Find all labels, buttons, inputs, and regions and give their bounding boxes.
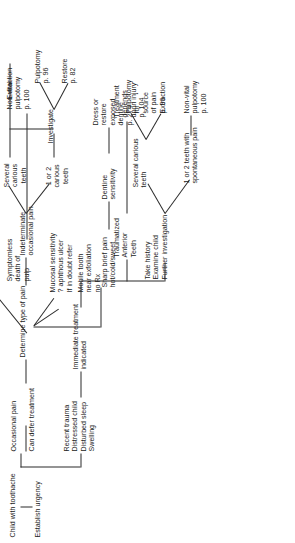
connector-determine-fan-spine (33, 326, 100, 327)
connector-indeterminate-to-several-carious (8, 185, 26, 213)
connector-urgency-spine (20, 466, 80, 467)
connector-immediate-to-history2 (164, 263, 165, 281)
connector-indeterminate-to-one-or-two-carious (25, 183, 49, 214)
node-several-carious-teeth-lower: Several carious teeth (131, 138, 148, 187)
node-extraction-upper: Extraction (5, 67, 13, 99)
connector-urgency-to-trauma (80, 453, 81, 467)
connector-investigate-to-pulpotomy (39, 82, 54, 109)
connector-spont-to-nonvital-pulpotomy (190, 115, 191, 135)
connector-investigate-to-restore (53, 83, 68, 110)
node-several-carious-teeth-upper: Several carious teeth (2, 163, 27, 187)
connector-sharp-to-dentine (108, 201, 109, 229)
connector-determine-to-indeterminate (25, 257, 26, 285)
connector-determine-to-mobile (33, 308, 58, 326)
connector-history-to-one-or-two-spont (164, 179, 189, 214)
connector-immediate-spine (80, 280, 164, 281)
node-nonvital-pulpotomy-lower: Non-vital pulpotomy p. 100 (182, 80, 207, 113)
node-establish-urgency: Establish urgency (33, 481, 41, 537)
connector-determine-to-sharp (100, 287, 101, 327)
node-extraction-lower: Extraction (158, 81, 166, 113)
node-determine-type-of-pain: Determine type of pain (18, 285, 26, 357)
node-mucosal-sensitivity: Mucosal sensitivity ? aphthous ulcer If … (48, 232, 73, 292)
flowchart-canvas: Child with toothache Establish urgency O… (0, 0, 295, 543)
connector-dentine-to-dress (108, 127, 109, 153)
node-recent-trauma: Recent trauma Distressed child Disturbed… (62, 401, 96, 451)
connector-traumatized-to-treatment (126, 121, 127, 213)
node-mobile-tooth: Mobile tooth near exfoliation no Rx (76, 244, 101, 292)
connector-urgency-to-occasional (20, 453, 21, 467)
node-root: Child with toothache (8, 473, 16, 537)
connector-determine-to-mucosal (33, 297, 54, 325)
node-one-or-two-carious-teeth: 1 or 2 carious teeth (44, 164, 69, 187)
node-restore: Restore p. 82 (60, 58, 77, 83)
connector-history-to-several-carious (147, 183, 165, 213)
node-pulpotomy: Pulpotomy p. 96 (33, 49, 50, 83)
connector-root-to-urgency (20, 506, 32, 507)
node-dentine-sensitivity: Dentine sensitivity (100, 168, 117, 199)
node-occasional-pain: Occasional pain (9, 400, 17, 451)
connector-several-carious-lower-to-extraction (145, 113, 161, 139)
connector-to-traumatized-anterior (126, 259, 127, 281)
node-investigate: Investigate (46, 108, 54, 143)
node-can-defer-treatment: Can defer treatment (27, 388, 35, 451)
node-immediate-treatment: Immediate treatment indicated (71, 304, 88, 369)
node-traumatized-anterior-teeth: Traumatized Anterior Teeth (112, 218, 137, 257)
flowchart-page: Child with toothache Establish urgency O… (0, 0, 295, 543)
connector-trauma-to-immediate (80, 371, 81, 397)
connector-occasional-to-defer (25, 425, 26, 451)
connector-defer-to-determine (25, 359, 26, 383)
